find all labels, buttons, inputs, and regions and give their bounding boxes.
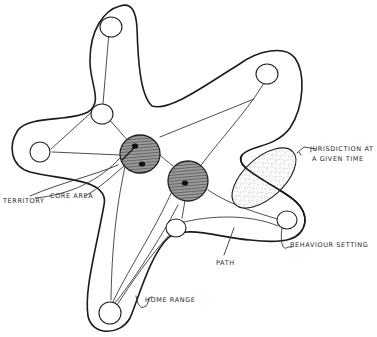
setting-node-bottom bbox=[99, 302, 121, 324]
core-areas bbox=[120, 135, 208, 201]
core-area-left-dot-1 bbox=[132, 143, 138, 148]
label-jurisdiction-line2: a given time bbox=[312, 155, 364, 163]
core-area-right bbox=[168, 161, 208, 201]
jurisdiction-area bbox=[222, 137, 307, 219]
label-home-range: Home range bbox=[145, 296, 196, 304]
setting-node-right bbox=[277, 211, 297, 229]
core-area-right-dot bbox=[182, 180, 188, 185]
label-jurisdiction-line1: Jurisdiction at bbox=[310, 145, 374, 153]
core-area-left-dot-2 bbox=[139, 161, 145, 166]
setting-node-center bbox=[166, 219, 186, 237]
label-behaviour-setting: Behaviour setting bbox=[290, 241, 368, 249]
label-core-area: Core area bbox=[50, 192, 93, 200]
core-area-left bbox=[120, 135, 160, 173]
label-path: Path bbox=[216, 259, 235, 267]
setting-node-top-right bbox=[256, 64, 278, 84]
setting-node-left bbox=[30, 142, 50, 162]
setting-node-top bbox=[100, 17, 122, 37]
label-territory: Territory bbox=[3, 197, 45, 205]
setting-node-upper-left bbox=[91, 104, 113, 124]
territory-diagram bbox=[0, 0, 377, 337]
